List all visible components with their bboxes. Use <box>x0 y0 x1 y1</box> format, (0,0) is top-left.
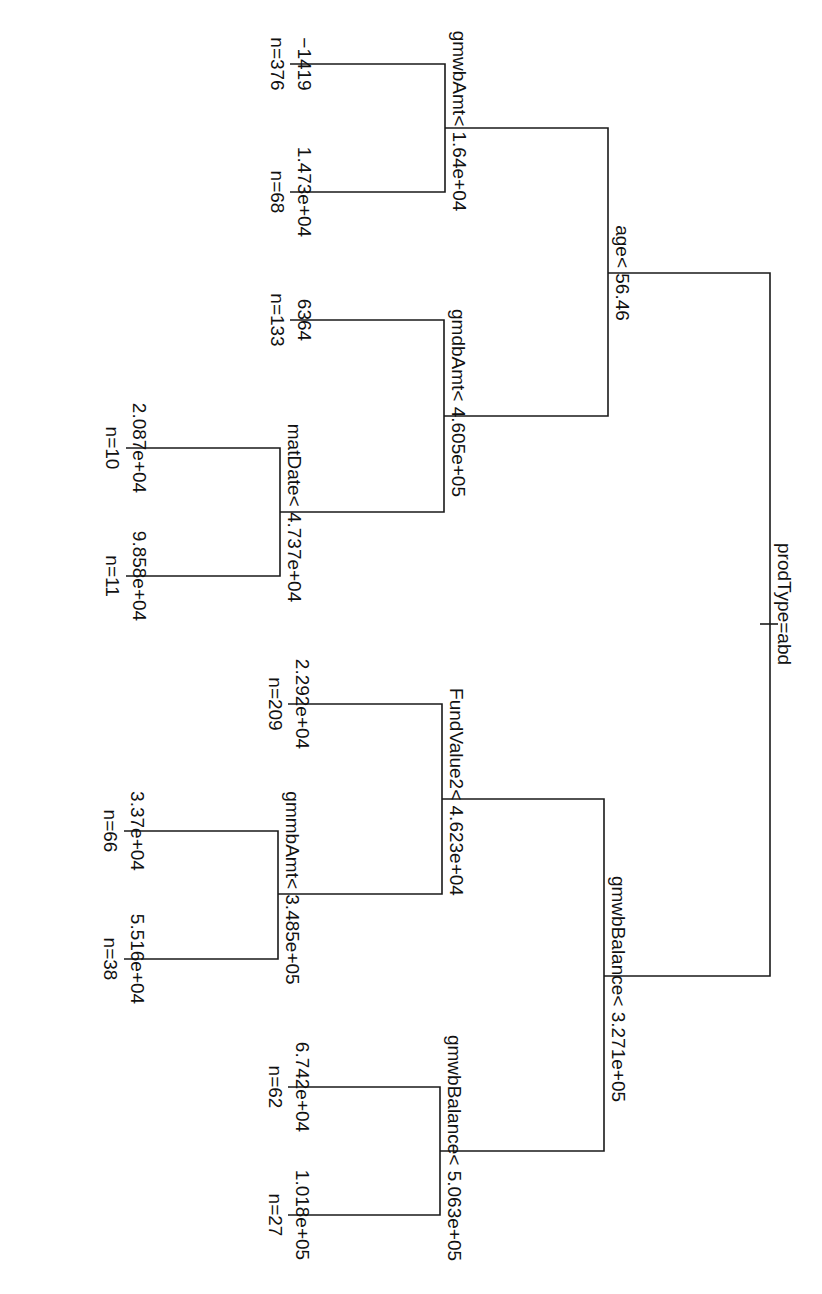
leaf-value: 5.516e+04 <box>127 914 148 1005</box>
split-label-gmwbBalance-2: gmwbBalance< 5.063e+05 <box>444 1035 465 1261</box>
split-label-age: age< 56.46 <box>612 225 633 321</box>
leaf-n: n=10 <box>102 427 123 470</box>
split-labels: prodType=abd age< 56.46 gmwbAmt< 1.64e+0… <box>282 31 795 1261</box>
leaf-n: n=209 <box>265 677 286 730</box>
split-label-matDate: matDate< 4.737e+04 <box>284 424 305 603</box>
leaf-n: n=376 <box>267 37 288 90</box>
leaf-value: 1.018e+05 <box>292 1170 313 1260</box>
regression-tree-diagram: prodType=abd age< 56.46 gmwbAmt< 1.64e+0… <box>0 0 822 1294</box>
leaf-n: n=11 <box>102 555 123 596</box>
split-label-gmwbBalance-1: gmwbBalance< 3.271e+05 <box>608 876 629 1102</box>
leaf-value: 3.37e+04 <box>127 791 148 871</box>
split-label-gmwbAmt: gmwbAmt< 1.64e+04 <box>449 31 470 212</box>
leaf-value: 2.087e+04 <box>129 403 150 494</box>
split-label-gmdbAmt: gmdbAmt< 4.605e+05 <box>448 309 469 497</box>
leaf-value: 1.473e+04 <box>294 147 315 238</box>
split-label-FundValue2: FundValue2< 4.623e+04 <box>446 688 467 896</box>
split-label-gmmbAmt: gmmbAmt< 3.485e+05 <box>282 791 303 984</box>
leaf-n: n=133 <box>267 293 288 346</box>
leaf-n: n=62 <box>265 1066 286 1109</box>
leaf-n: n=66 <box>100 810 121 853</box>
leaf-value: −1419 <box>294 37 315 90</box>
leaf-value: 9.858e+04 <box>129 531 150 622</box>
leaf-n: n=68 <box>267 171 288 214</box>
leaf-n: n=27 <box>265 1194 286 1237</box>
leaf-value: 6364 <box>294 299 315 342</box>
leaf-labels: −1419 n=376 1.473e+04 n=68 6364 n=133 2.… <box>100 37 315 1260</box>
edge-root <box>604 273 770 976</box>
leaf-value: 6.742e+04 <box>292 1042 313 1133</box>
split-label-root: prodType=abd <box>774 543 795 665</box>
leaf-value: 2.292e+04 <box>292 659 313 750</box>
leaf-n: n=38 <box>100 938 121 981</box>
